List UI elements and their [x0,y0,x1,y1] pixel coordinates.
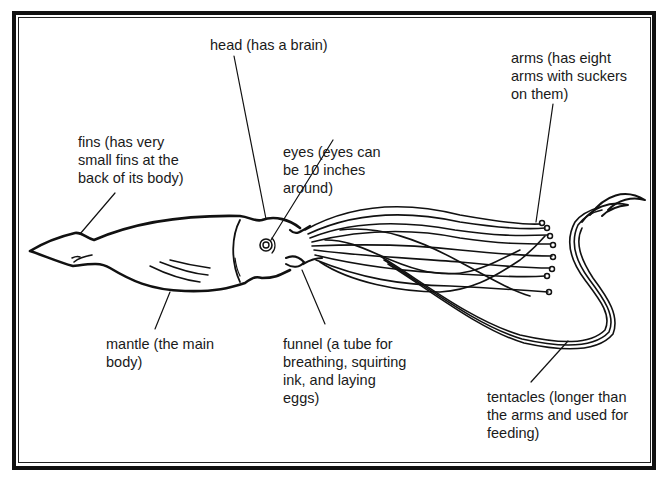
mantle-outline [30,216,300,291]
label-eyes: eyes (eyes can be 10 inches around) [283,143,381,197]
fins-leader-line [80,193,115,234]
label-head: head (has a brain) [210,36,328,54]
tentacles [380,207,615,349]
tentacle-club-2 [590,194,645,215]
label-arms: arms (has eight arms with suckers on the… [511,49,627,103]
label-mantle: mantle (the main body) [106,335,214,371]
funnel-shape [286,256,304,266]
label-funnel: funnel (a tube for breathing, squirting … [283,335,406,407]
eye-inner [263,242,269,248]
label-tentacles: tentacles (longer than the arms and used… [487,388,628,442]
mantle-leader-line [155,292,170,329]
eye-outer [260,239,272,251]
funnel-leader-line [302,270,325,324]
arm-tips [540,221,556,295]
arms-bundle [305,207,552,296]
head-leader-line [234,56,266,219]
label-fins: fins (has very small fins at the back of… [78,133,184,187]
arms-leader-line [536,104,553,222]
tentacle-club-1 [582,204,628,222]
